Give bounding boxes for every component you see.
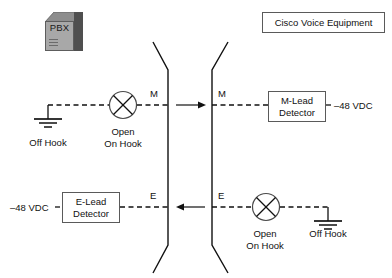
pbx-vent-line xyxy=(49,45,58,46)
e-ground-off-hook-label: Off Hook xyxy=(306,228,350,239)
e-arrow-left-icon xyxy=(176,204,184,211)
break-line-left xyxy=(153,42,168,273)
m-lead-detector-label-line2: Detector xyxy=(279,107,315,119)
m-lead-detector-label-line1: M-Lead xyxy=(281,95,313,107)
e-lead-detector-box: E-Lead Detector xyxy=(62,192,120,223)
e-switch-state-line2: On Hook xyxy=(243,240,287,252)
e-lead-label-right: E xyxy=(218,190,224,201)
pbx-label: PBX xyxy=(45,21,74,35)
cisco-voice-equipment-label: Cisco Voice Equipment xyxy=(275,17,373,29)
e-switch-state-label: Open On Hook xyxy=(243,228,287,251)
m-lead-label-left: M xyxy=(150,88,158,99)
e-lead-label-left: E xyxy=(150,190,156,201)
break-line-right xyxy=(212,42,228,273)
m-switch-state-label: Open On Hook xyxy=(101,126,145,149)
pbx-cube-side-face xyxy=(74,12,83,51)
e-switch-state-line1: Open xyxy=(243,228,287,240)
pbx-vent-line xyxy=(49,39,58,40)
m-lead-detector-box: M-Lead Detector xyxy=(268,91,326,122)
e-lead-detector-label-line2: Detector xyxy=(73,208,109,220)
m-arrow-right-icon xyxy=(198,102,206,109)
diagram-canvas: PBX Cisco Voice Equipment M-Lead Detecto… xyxy=(0,0,392,278)
e-supply-voltage-label: –48 VDC xyxy=(10,202,49,213)
pbx-cube-icon: PBX xyxy=(45,12,83,51)
e-lead-detector-label-line1: E-Lead xyxy=(76,196,107,208)
pbx-vent-line xyxy=(49,42,58,43)
cisco-voice-equipment-box: Cisco Voice Equipment xyxy=(262,12,385,33)
m-switch-state-line1: Open xyxy=(101,126,145,138)
m-ground-off-hook-label: Off Hook xyxy=(26,137,70,148)
m-lead-label-right: M xyxy=(218,88,226,99)
m-switch-state-line2: On Hook xyxy=(101,138,145,150)
m-supply-voltage-label: –48 VDC xyxy=(334,100,373,111)
